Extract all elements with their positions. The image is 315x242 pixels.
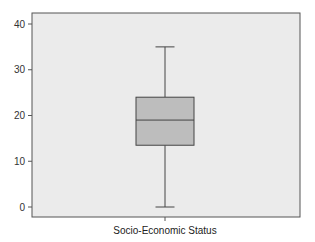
box-plot-chart: 010203040 Socio-Economic Status	[0, 0, 315, 242]
y-tick-label: 30	[14, 64, 26, 75]
y-tick-label: 20	[14, 110, 26, 121]
iqr-box	[136, 97, 194, 145]
y-axis: 010203040	[14, 19, 32, 213]
y-tick-label: 40	[14, 19, 26, 30]
y-tick-label: 10	[14, 156, 26, 167]
y-tick-label: 0	[19, 202, 25, 213]
x-axis-label: Socio-Economic Status	[113, 225, 216, 236]
